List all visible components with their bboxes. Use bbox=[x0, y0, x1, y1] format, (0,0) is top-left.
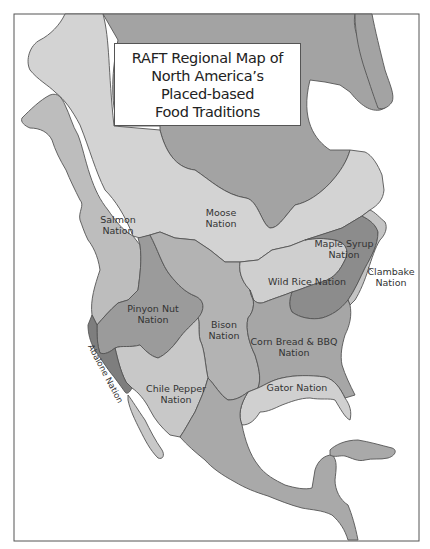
title-line-1: RAFT Regional Map of bbox=[132, 49, 283, 67]
title-line-2: North America’s bbox=[151, 67, 264, 85]
map-title-box: RAFT Regional Map of North America’s Pla… bbox=[114, 43, 301, 126]
label-gator: Gator Nation bbox=[267, 382, 328, 393]
title-line-4: Food Traditions bbox=[155, 103, 260, 121]
label-wild-rice: Wild Rice Nation bbox=[268, 276, 346, 287]
label-moose: MooseNation bbox=[205, 207, 236, 229]
title-line-3: Placed-based bbox=[161, 85, 254, 103]
label-bison: BisonNation bbox=[208, 319, 239, 341]
label-salmon: SalmonNation bbox=[100, 214, 136, 236]
map-frame: SalmonNation MooseNation Maple SyrupNati… bbox=[0, 0, 430, 549]
